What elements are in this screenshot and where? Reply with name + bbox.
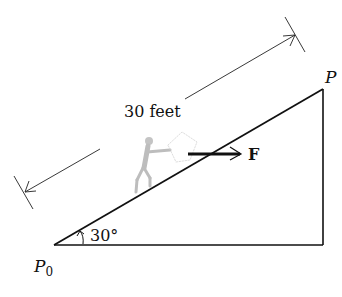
- point-p-label: P: [324, 67, 337, 87]
- dimension-label: 30 feet: [124, 102, 181, 121]
- incline-triangle: [54, 89, 323, 245]
- angle-arrow: [77, 231, 84, 244]
- force-arrow: [188, 147, 241, 160]
- point-p0-label: P0: [33, 256, 53, 279]
- person-pushing-figure: [136, 132, 197, 192]
- force-label: F: [248, 145, 260, 164]
- angle-label: 30°: [90, 226, 118, 245]
- incline-diagram: 30 feet F 30° P0 P: [0, 0, 342, 297]
